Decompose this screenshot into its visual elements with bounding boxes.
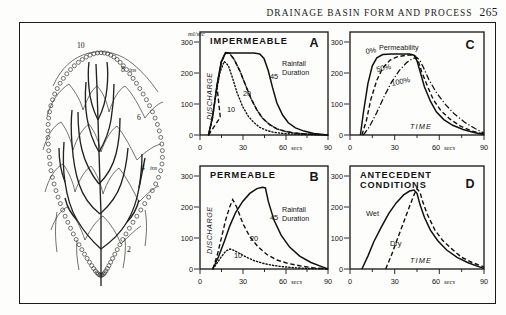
- divide-marker: [124, 232, 128, 236]
- divide-marker: [72, 64, 76, 68]
- divide-marker: [65, 72, 69, 76]
- divide-marker: [138, 87, 142, 91]
- panel-c-ytick-100: 100: [331, 100, 343, 109]
- divide-marker: [84, 55, 88, 59]
- panel-a-x-units: secs: [291, 144, 302, 151]
- panel-c-xtick-60: 60: [432, 143, 440, 152]
- panel-d-antecedent-conditions: 300 200 100 0 ANTECEDENT CONDITIONS D We…: [330, 160, 488, 300]
- panel-c-xlabel: TIME: [410, 122, 432, 131]
- panel-d-xtick-0: 0: [348, 277, 352, 286]
- divide-marker: [131, 76, 135, 80]
- divide-marker: [118, 60, 122, 64]
- panel-b-permeable: 300 200 100 0 PERMEABLE B DISCHARGE 10 2…: [186, 160, 332, 300]
- isohyet-label-4: 4: [141, 163, 145, 172]
- panel-b-xtick-60: 60: [279, 277, 287, 286]
- isohyet-units-4: ins: [150, 164, 158, 171]
- panel-a-title: IMPERMEABLE: [210, 36, 288, 46]
- panel-a-label-45: 45: [270, 72, 278, 81]
- panel-d-xtick-30: 30: [391, 277, 399, 286]
- panel-d-ytick-100: 100: [331, 234, 343, 243]
- isohyet-label-10: 10: [77, 41, 85, 50]
- panel-b-label-20: 20: [250, 234, 258, 243]
- divide-marker: [147, 195, 151, 199]
- panel-d-y-axis: 300 200 100 0: [331, 172, 349, 274]
- divide-marker: [55, 87, 59, 91]
- divide-marker: [46, 129, 50, 133]
- panel-b-xtick-30: 30: [239, 277, 247, 286]
- divide-marker: [156, 175, 160, 179]
- panel-d-letter: D: [465, 177, 474, 191]
- divide-marker: [115, 248, 119, 252]
- panel-d-ytick-200: 200: [331, 203, 343, 212]
- divide-marker: [85, 256, 89, 260]
- panel-a-xtick-30: 30: [239, 143, 247, 152]
- panel-b-ylabel: DISCHARGE: [205, 206, 214, 254]
- divide-marker: [127, 226, 131, 230]
- isohyet-label-6: 6: [137, 113, 141, 122]
- panel-c-label-0pct: 0%: [365, 45, 377, 56]
- divide-marker: [139, 208, 143, 212]
- panel-b-x-axis: 0 30 60 secs 90: [198, 269, 332, 286]
- divide-marker: [71, 232, 75, 236]
- panel-d-xtick-60: 60: [432, 277, 440, 286]
- isohyet-label-8: 8: [121, 65, 125, 74]
- panel-c-x-axis: 0 30 60 secs 90: [348, 135, 488, 152]
- panel-b-x-units: secs: [291, 278, 302, 285]
- divide-marker: [113, 252, 117, 256]
- panel-c-xtick-0: 0: [348, 143, 352, 152]
- drainage-basin-map: 10 8 ins 6 4 ins 2: [21, 24, 181, 302]
- panel-d-label-dry: Dry: [390, 239, 402, 248]
- divide-marker: [66, 220, 70, 224]
- figure-page: DRAINAGE BASIN FORM AND PROCESS265: [0, 0, 506, 315]
- divide-marker: [83, 252, 87, 256]
- panel-b-xtick-0: 0: [198, 277, 202, 286]
- panel-c-label-100pct: 100%: [390, 75, 411, 88]
- panel-a-letter: A: [309, 36, 318, 50]
- divide-marker: [69, 68, 73, 72]
- isohyet-contours: [43, 52, 163, 244]
- divide-marker: [148, 104, 152, 108]
- panel-c-x-units: secs: [444, 144, 455, 151]
- divide-marker: [80, 57, 84, 61]
- panel-d-ytick-300: 300: [331, 172, 343, 181]
- panel-a-annotation-line1: Rainfall: [282, 59, 306, 68]
- divide-marker: [52, 182, 56, 186]
- divide-marker: [154, 182, 158, 186]
- panel-d-xlabel: TIME: [410, 256, 432, 265]
- panel-a-impermeable: ml/sec 300 200 100 0 IMPERMEABLE A DISCH…: [186, 26, 332, 160]
- divide-marker: [160, 155, 164, 159]
- divide-marker: [143, 202, 147, 206]
- panel-b-curve-10: [213, 249, 328, 269]
- panel-c-letter: C: [465, 38, 474, 52]
- panel-b-label-45: 45: [270, 213, 278, 222]
- divide-marker: [155, 122, 159, 126]
- panel-a-ytick-100: 100: [181, 100, 193, 109]
- divide-marker: [125, 68, 129, 72]
- panel-d-title-line1: ANTECEDENT: [360, 170, 432, 180]
- divide-marker: [74, 237, 78, 241]
- divide-marker: [58, 81, 62, 85]
- panel-b-letter: B: [309, 170, 318, 184]
- divide-marker: [134, 81, 138, 85]
- divide-marker: [80, 248, 84, 252]
- divide-marker: [159, 135, 163, 139]
- panel-c-xtick-90: 90: [480, 143, 488, 152]
- divide-marker: [46, 142, 50, 146]
- panel-d-curve-dry: [386, 189, 484, 269]
- panel-c-y-axis: 300 200 100 0: [331, 38, 349, 140]
- panel-a-x-axis: 0 30 60 secs 90: [198, 135, 332, 152]
- panel-a-label-10: 10: [227, 105, 235, 114]
- divide-marker: [111, 256, 115, 260]
- divide-marker: [47, 149, 51, 153]
- panel-b-label-10: 10: [234, 251, 242, 260]
- divide-marker: [160, 149, 164, 153]
- divide-marker: [88, 53, 92, 57]
- isohyet-label-2: 2: [127, 245, 131, 254]
- divide-marker: [144, 98, 148, 102]
- panel-d-label-wet: Wet: [366, 209, 379, 218]
- panel-c-ytick-200: 200: [331, 69, 343, 78]
- divide-marker: [135, 214, 139, 218]
- divide-marker: [159, 169, 163, 173]
- panel-d-x-units: secs: [444, 278, 455, 285]
- divide-marker: [58, 202, 62, 206]
